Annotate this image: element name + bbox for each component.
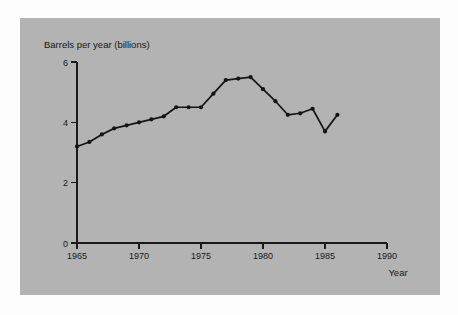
x-tick-label-1970: 1970	[129, 251, 149, 261]
data-point	[112, 126, 116, 130]
y-axis-ticks	[71, 62, 77, 243]
x-tick-label-1975: 1975	[191, 251, 211, 261]
data-point	[199, 105, 203, 109]
data-series-line	[77, 77, 337, 146]
data-series-markers	[75, 75, 340, 149]
y-tick-label-0: 0	[63, 239, 68, 249]
x-axis-ticks	[77, 243, 387, 249]
data-point	[149, 117, 153, 121]
data-point	[298, 111, 302, 115]
x-axis-tick-labels: 1965 1970 1975 1980 1985 1990	[67, 251, 397, 261]
data-point	[211, 92, 215, 96]
x-tick-label-1990: 1990	[377, 251, 397, 261]
x-axis-title: Year	[388, 267, 407, 278]
data-point	[286, 113, 290, 117]
data-point	[224, 78, 228, 82]
data-point	[261, 87, 265, 91]
y-tick-label-6: 6	[63, 58, 68, 68]
data-point	[162, 114, 166, 118]
data-point	[87, 140, 91, 144]
x-tick-label-1965: 1965	[67, 251, 87, 261]
data-point	[335, 113, 339, 117]
data-point	[125, 123, 129, 127]
data-point	[174, 105, 178, 109]
y-tick-label-2: 2	[63, 178, 68, 188]
data-point	[236, 76, 240, 80]
data-point	[187, 105, 191, 109]
data-point	[311, 107, 315, 111]
data-point	[273, 99, 277, 103]
line-chart: Barrels per year (billions) 0 2 4 6 1	[0, 0, 458, 315]
x-tick-label-1985: 1985	[315, 251, 335, 261]
y-axis-title: Barrels per year (billions)	[44, 39, 150, 50]
data-point	[137, 120, 141, 124]
y-tick-label-4: 4	[63, 118, 68, 128]
y-axis-tick-labels: 0 2 4 6	[63, 58, 68, 249]
data-point	[249, 75, 253, 79]
x-tick-label-1980: 1980	[253, 251, 273, 261]
data-point	[323, 129, 327, 133]
data-point	[100, 132, 104, 136]
data-point	[75, 144, 79, 148]
figure-root: Barrels per year (billions) 0 2 4 6 1	[0, 0, 458, 315]
